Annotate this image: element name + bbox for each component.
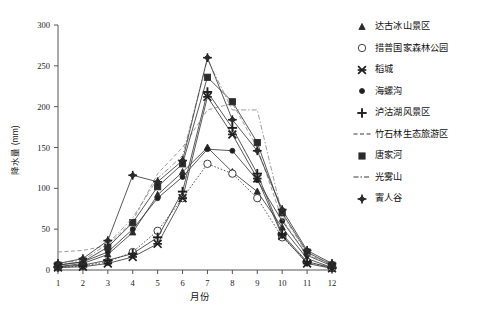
circle-open-marker-icon bbox=[352, 41, 372, 55]
y-tick-label: 100 bbox=[37, 183, 50, 193]
legend-item-2[interactable]: 措普国家森林公园 bbox=[352, 38, 485, 60]
x-axis: 123456789101112 bbox=[56, 270, 336, 288]
legend-item-7[interactable]: 唐家河 bbox=[352, 145, 485, 167]
y-tick-label: 50 bbox=[42, 224, 51, 234]
legend-item-1[interactable]: 达古冰山景区 bbox=[352, 16, 485, 38]
x-tick-label: 1 bbox=[56, 278, 60, 288]
legend-item-label: 唐家河 bbox=[375, 151, 403, 160]
square-marker-icon bbox=[352, 149, 372, 163]
plus-marker-icon bbox=[352, 106, 372, 120]
data-point-marker bbox=[229, 99, 235, 105]
data-point-marker bbox=[180, 174, 185, 179]
y-tick-label: 300 bbox=[37, 20, 50, 30]
y-tick-label: 250 bbox=[37, 61, 50, 71]
dashed-line-icon bbox=[352, 127, 372, 141]
diamond-marker-icon bbox=[352, 192, 372, 206]
star-marker-icon bbox=[352, 63, 372, 77]
x-tick-label: 12 bbox=[328, 278, 337, 288]
legend-item-label: 措普国家森林公园 bbox=[375, 44, 449, 53]
plot-area: 050100150200250300 123456789101112 降水量 (… bbox=[0, 0, 345, 318]
x-tick-label: 9 bbox=[255, 278, 259, 288]
legend-item-label: 海螺沟 bbox=[375, 87, 403, 96]
x-tick-label: 8 bbox=[230, 278, 234, 288]
data-point-marker bbox=[254, 188, 260, 194]
data-point-marker bbox=[204, 74, 210, 80]
series-7 bbox=[55, 74, 335, 268]
data-point-marker bbox=[204, 160, 211, 167]
data-point-marker bbox=[359, 153, 365, 159]
x-tick-label: 2 bbox=[81, 278, 85, 288]
x-tick-label: 3 bbox=[106, 278, 110, 288]
data-point-marker bbox=[357, 108, 366, 117]
x-axis-title: 月份 bbox=[190, 291, 210, 302]
series-5 bbox=[53, 87, 336, 272]
y-tick-label: 150 bbox=[37, 143, 50, 153]
legend-item-6[interactable]: 竹石林生态旅游区 bbox=[352, 124, 485, 146]
triangle-marker-icon bbox=[352, 20, 372, 34]
legend-item-8[interactable]: 光雾山 bbox=[352, 167, 485, 189]
series-layer bbox=[53, 53, 336, 272]
x-tick-label: 4 bbox=[131, 278, 136, 288]
chart-legend: 达古冰山景区措普国家森林公园稻城海螺沟泸沽湖风景区竹石林生态旅游区唐家河光雾山賨… bbox=[352, 16, 485, 210]
legend-item-4[interactable]: 海螺沟 bbox=[352, 81, 485, 103]
data-point-marker bbox=[358, 66, 367, 74]
series-line bbox=[58, 97, 332, 269]
legend-item-label: 光雾山 bbox=[375, 173, 403, 182]
data-point-marker bbox=[230, 148, 235, 153]
data-point-marker bbox=[229, 170, 236, 177]
series-4 bbox=[56, 147, 335, 269]
legend-item-label: 稻城 bbox=[375, 65, 393, 74]
y-axis-title: 降水量 (mm) bbox=[10, 125, 20, 174]
legend-item-label: 竹石林生态旅游区 bbox=[375, 130, 449, 139]
data-point-marker bbox=[155, 196, 160, 201]
data-point-marker bbox=[130, 227, 135, 232]
y-axis: 050100150200250300 bbox=[37, 20, 58, 275]
data-point-marker bbox=[254, 194, 261, 201]
x-tick-label: 10 bbox=[278, 278, 287, 288]
series-line bbox=[58, 77, 332, 265]
data-point-marker bbox=[203, 53, 212, 62]
x-tick-label: 6 bbox=[180, 278, 184, 288]
data-point-marker bbox=[253, 146, 262, 155]
data-point-marker bbox=[358, 45, 365, 52]
x-tick-label: 7 bbox=[205, 278, 209, 288]
data-point-marker bbox=[128, 171, 137, 180]
data-point-marker bbox=[359, 23, 365, 29]
data-point-marker bbox=[254, 140, 260, 146]
series-line bbox=[58, 92, 332, 268]
data-point-marker bbox=[205, 147, 210, 152]
legend-item-3[interactable]: 稻城 bbox=[352, 59, 485, 81]
legend-item-label: 泸沽湖风景区 bbox=[375, 108, 430, 117]
chart-figure: 050100150200250300 123456789101112 降水量 (… bbox=[0, 0, 485, 318]
precipitation-line-chart: 050100150200250300 123456789101112 降水量 (… bbox=[0, 0, 345, 318]
x-tick-label: 5 bbox=[156, 278, 160, 288]
data-point-marker bbox=[360, 89, 365, 94]
y-tick-label: 0 bbox=[46, 265, 50, 275]
x-tick-label: 11 bbox=[303, 278, 311, 288]
series-line bbox=[58, 149, 332, 266]
series-6 bbox=[58, 103, 332, 263]
legend-item-5[interactable]: 泸沽湖风景区 bbox=[352, 102, 485, 124]
series-2 bbox=[54, 160, 335, 272]
series-line bbox=[58, 103, 332, 263]
legend-item-9[interactable]: 賨人谷 bbox=[352, 188, 485, 210]
dot-marker-icon bbox=[352, 84, 372, 98]
solid-line-icon bbox=[352, 170, 372, 184]
data-point-marker bbox=[358, 194, 367, 203]
y-tick-label: 200 bbox=[37, 102, 50, 112]
legend-item-label: 賨人谷 bbox=[375, 194, 403, 203]
legend-item-label: 达古冰山景区 bbox=[375, 22, 430, 31]
